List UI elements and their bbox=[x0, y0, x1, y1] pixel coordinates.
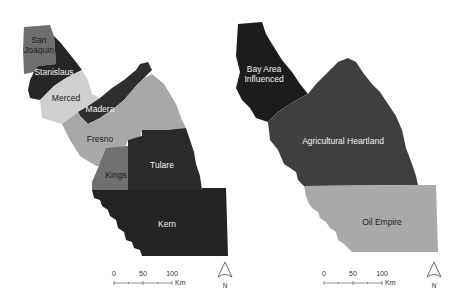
label-bay-area-line2: Influenced bbox=[244, 74, 283, 84]
counties-map bbox=[23, 25, 228, 256]
scale-tick-100-left: 100 bbox=[166, 270, 178, 277]
north-arrow-icon-right bbox=[427, 262, 441, 277]
region-tulare[interactable] bbox=[128, 128, 202, 190]
label-kern: Kern bbox=[158, 219, 176, 229]
label-oil-empire: Oil Empire bbox=[362, 217, 402, 227]
scale-tick-0-left: 0 bbox=[112, 270, 116, 277]
label-bay-area-influenced: Bay Area Influenced bbox=[244, 64, 283, 84]
north-label-right: N bbox=[432, 282, 437, 289]
label-fresno: Fresno bbox=[87, 134, 113, 144]
label-san-joaquin-line1: San bbox=[24, 35, 54, 45]
scale-bar-right bbox=[324, 281, 382, 285]
map-canvas bbox=[0, 0, 462, 305]
label-agricultural-heartland: Agricultural Heartland bbox=[302, 136, 384, 146]
label-bay-area-line1: Bay Area bbox=[244, 64, 283, 74]
label-merced: Merced bbox=[52, 93, 80, 103]
scale-tick-0-right: 0 bbox=[322, 270, 326, 277]
scale-unit-left: Km bbox=[175, 279, 186, 286]
scale-bar-left bbox=[114, 281, 172, 285]
scale-unit-right: Km bbox=[385, 279, 396, 286]
label-kings: Kings bbox=[105, 170, 126, 180]
label-san-joaquin-line2: Joaquin bbox=[24, 45, 54, 55]
label-stanislaus: Stanislaus bbox=[34, 67, 73, 77]
label-madera: Madera bbox=[86, 104, 115, 114]
scale-tick-100-right: 100 bbox=[376, 270, 388, 277]
scale-tick-50-right: 50 bbox=[349, 270, 357, 277]
label-tulare: Tulare bbox=[150, 160, 174, 170]
north-label-left: N bbox=[223, 282, 228, 289]
scale-tick-50-left: 50 bbox=[139, 270, 147, 277]
north-arrow-icon-left bbox=[218, 262, 232, 277]
label-san-joaquin: San Joaquin bbox=[24, 35, 54, 55]
